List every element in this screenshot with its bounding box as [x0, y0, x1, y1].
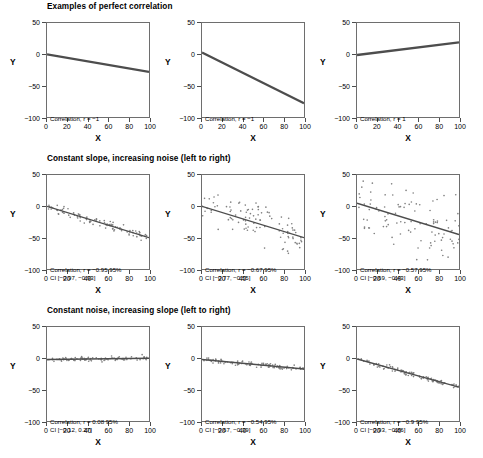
data-point [291, 227, 293, 229]
data-point [268, 366, 270, 368]
data-point [251, 361, 253, 363]
regression-line [357, 359, 459, 387]
data-point [429, 247, 431, 249]
x-tick [305, 118, 306, 122]
data-point [208, 198, 210, 200]
data-point [132, 230, 134, 232]
data-point [453, 247, 455, 249]
data-point [101, 361, 103, 363]
x-tick [129, 270, 130, 274]
confidence-interval: CI [−0.12, 0.27] [50, 426, 118, 433]
data-point [254, 231, 256, 233]
x-tick-label: 40 [84, 123, 92, 130]
x-tick-label: 80 [125, 427, 133, 434]
data-point [132, 235, 134, 237]
y-axis: 500−50−100 [191, 22, 201, 118]
y-tick-label: 0 [191, 51, 195, 58]
data-point [288, 237, 290, 239]
y-tick-label: 50 [32, 171, 40, 178]
y-tick-label: −100 [24, 419, 40, 426]
data-point [370, 191, 372, 193]
data-point [261, 212, 263, 214]
correlation-value: Correlation, r = −0.57 95% [360, 266, 431, 273]
data-point [281, 216, 283, 218]
plot-area [201, 174, 305, 270]
plot-area [356, 326, 460, 422]
data-point [279, 368, 281, 370]
x-tick-label: 0 [199, 427, 203, 434]
data-point [256, 366, 258, 368]
data-point [218, 362, 220, 364]
x-tick [108, 118, 109, 122]
y-tick-label: 50 [342, 19, 350, 26]
x-tick [263, 118, 264, 122]
x-tick-label: 100 [454, 123, 466, 130]
data-point [288, 252, 290, 254]
x-tick-label: 80 [435, 275, 443, 282]
data-point [63, 206, 65, 208]
y-axis-title: Y [10, 361, 16, 371]
x-axis-title: X [405, 437, 411, 447]
data-point [269, 215, 271, 217]
data-point [231, 218, 233, 220]
data-point [451, 240, 453, 242]
data-point [438, 233, 440, 235]
x-tick [129, 118, 130, 122]
data-point [264, 247, 266, 249]
data-point [248, 361, 250, 363]
data-point [235, 364, 237, 366]
data-point [391, 183, 393, 185]
x-tick [439, 422, 440, 426]
data-point [223, 363, 225, 365]
plot-area [46, 174, 150, 270]
y-axis-title: Y [165, 361, 171, 371]
y-tick-label: −100 [334, 267, 350, 274]
data-point [279, 223, 281, 225]
data-point [257, 214, 259, 216]
data-point [281, 368, 283, 370]
x-tick-label: 40 [239, 123, 247, 130]
data-point [458, 238, 459, 240]
data-point [407, 375, 409, 377]
y-tick-label: 50 [342, 171, 350, 178]
x-axis-title: X [405, 285, 411, 295]
data-point [259, 227, 261, 229]
data-point [389, 364, 391, 366]
x-tick-label: 100 [144, 123, 156, 130]
data-point [92, 224, 94, 226]
x-tick [201, 422, 202, 426]
confidence-interval: CI [−0.69, −0.43] [360, 274, 431, 281]
data-point [105, 227, 107, 229]
data-point [414, 228, 416, 230]
data-point [217, 205, 219, 207]
x-tick [460, 270, 461, 274]
data-point [255, 218, 257, 220]
data-point [446, 220, 448, 222]
data-point [383, 226, 385, 228]
data-point [217, 229, 219, 231]
data-point [48, 204, 50, 206]
correlation-annotation: Correlation, r = −0.95 95%CI [−0.97, −0.… [50, 266, 121, 281]
data-point [451, 230, 453, 232]
y-tick-label: 0 [36, 203, 40, 210]
regression-line [47, 206, 149, 237]
data-point [397, 204, 399, 206]
data-point [243, 228, 245, 230]
data-point [111, 355, 113, 357]
data-point [245, 211, 247, 213]
plot-panel-6: 500−50−100Y020406080100XCorrelation, r =… [8, 320, 160, 452]
regression-line [202, 360, 304, 369]
data-point [415, 203, 417, 205]
data-point [118, 356, 120, 358]
data-point [448, 227, 450, 229]
data-point [366, 219, 368, 221]
data-point [88, 356, 90, 358]
data-point [103, 220, 105, 222]
x-tick [150, 270, 151, 274]
x-axis-title: X [405, 133, 411, 143]
data-point [369, 203, 371, 205]
data-point [403, 373, 405, 375]
x-tick [460, 118, 461, 122]
y-tick-label: −50 [338, 83, 350, 90]
data-point [413, 376, 415, 378]
